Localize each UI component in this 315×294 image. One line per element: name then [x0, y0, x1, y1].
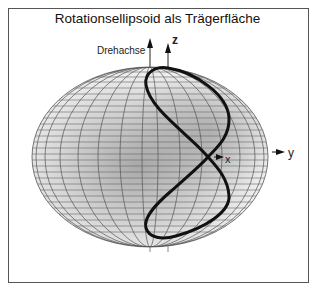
rotation-axis-arrow-icon	[147, 38, 153, 48]
z-axis-label: z	[172, 33, 178, 47]
x-axis-label: x	[225, 153, 231, 165]
z-axis-arrow-icon	[165, 43, 171, 53]
y-axis	[272, 149, 285, 155]
y-axis-label: y	[288, 146, 294, 160]
ellipsoid-diagram	[0, 0, 315, 294]
y-axis-arrow-icon	[276, 149, 285, 155]
rotation-axis-label: Drehachse	[97, 45, 145, 56]
